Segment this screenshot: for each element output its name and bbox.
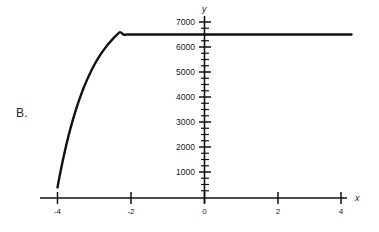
y-tick-label-3000: 3000 — [176, 117, 195, 127]
x-tick-label-2: 2 — [276, 207, 281, 216]
x-axis-name: x — [354, 193, 360, 203]
y-tick-label-2000: 2000 — [176, 142, 195, 152]
y-tick-label-6000: 6000 — [176, 42, 195, 52]
chart-figure: 7000 6000 5000 4000 3000 2000 1000 -4 -2… — [0, 0, 379, 232]
x-tick-label-neg4: -4 — [54, 207, 62, 216]
y-tick-label-7000: 7000 — [176, 17, 195, 27]
y-tick-label-4000: 4000 — [176, 92, 195, 102]
y-axis-name: y — [201, 4, 207, 14]
x-tick-label-4: 4 — [339, 207, 344, 216]
x-tick-label-neg2: -2 — [127, 207, 135, 216]
y-tick-label-5000: 5000 — [176, 67, 195, 77]
x-tick-label-0: 0 — [202, 207, 207, 216]
y-tick-label-1000: 1000 — [176, 167, 195, 177]
